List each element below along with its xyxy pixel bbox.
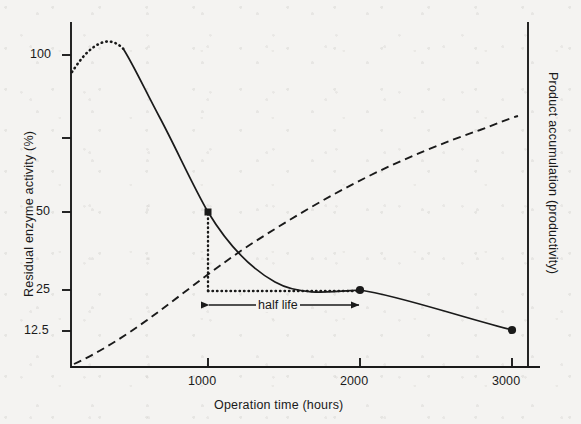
y-tick-label-12-5: 12.5 — [24, 323, 49, 337]
y-axis-left-title: Residual enzyme activity (%) — [22, 131, 36, 297]
y-axis-right-title: Product accumulation (productivity) — [546, 72, 560, 274]
data-point-marker-1000-50 — [205, 209, 212, 216]
series-enzyme-activity-dotted-phase — [72, 41, 126, 72]
y-tick-label-50: 50 — [36, 204, 50, 218]
x-axis-title: Operation time (hours) — [214, 398, 343, 412]
figure-page: 100 50 25 12.5 1000 2000 3000 Residual e… — [0, 0, 581, 424]
data-point-marker-2000-25 — [356, 286, 364, 294]
y-tick-label-25: 25 — [36, 282, 50, 296]
data-point-marker-3000-12-5 — [508, 326, 516, 334]
half-life-annotation-label: half life — [256, 298, 300, 312]
series-enzyme-activity-solid — [124, 50, 512, 330]
x-tick-label-2000: 2000 — [340, 374, 368, 388]
x-tick-label-1000: 1000 — [188, 374, 216, 388]
series-product-accumulation-dashed — [74, 116, 518, 364]
enzyme-activity-chart — [0, 0, 581, 424]
y-tick-label-100: 100 — [30, 47, 51, 61]
x-tick-label-3000: 3000 — [492, 374, 520, 388]
